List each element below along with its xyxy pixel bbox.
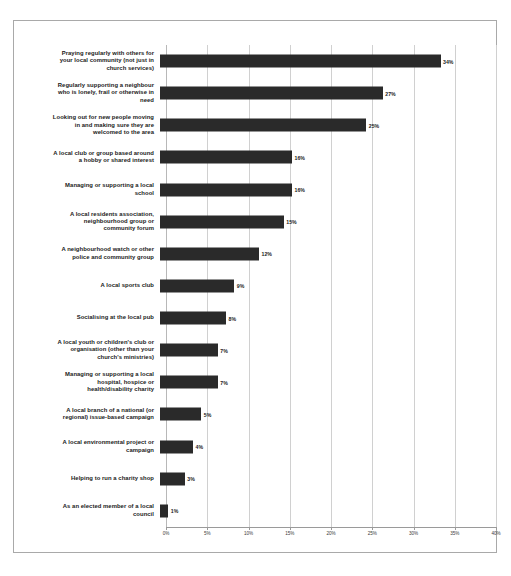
bar-rows: Praying regularly with others for your l… xyxy=(14,45,496,527)
bar-track: 8% xyxy=(160,302,496,334)
x-axis: 0%5%10%15%20%25%30%35%40% xyxy=(166,527,496,549)
x-tick xyxy=(331,527,332,530)
x-tick-label: 5% xyxy=(204,531,211,536)
bar-value-label: 34% xyxy=(443,58,453,64)
bar-track: 15% xyxy=(160,206,496,238)
x-tick xyxy=(166,527,167,530)
bar-row: A local youth or children's club or orga… xyxy=(14,334,496,366)
category-label: A local sports club xyxy=(14,282,160,289)
category-label: A local club or group based around a hob… xyxy=(14,150,160,165)
bar[interactable] xyxy=(160,312,226,325)
bar[interactable] xyxy=(160,408,201,421)
bar-value-label: 25% xyxy=(369,122,379,128)
category-label: A neighbourhood watch or other police an… xyxy=(14,246,160,261)
bar[interactable] xyxy=(160,279,234,292)
bar-track: 12% xyxy=(160,238,496,270)
bar[interactable] xyxy=(160,440,193,453)
bar-value-label: 3% xyxy=(187,476,195,482)
bar[interactable] xyxy=(160,247,259,260)
bar-value-label: 4% xyxy=(196,444,204,450)
x-tick xyxy=(249,527,250,530)
x-tick-label: 35% xyxy=(450,531,459,536)
category-label: A local branch of a national (or regiona… xyxy=(14,407,160,422)
bar-value-label: 1% xyxy=(171,508,179,514)
bar-value-label: 8% xyxy=(229,315,237,321)
x-tick-label: 20% xyxy=(326,531,335,536)
bar-track: 1% xyxy=(160,495,496,527)
x-tick xyxy=(455,527,456,530)
bar-track: 7% xyxy=(160,334,496,366)
bar-value-label: 7% xyxy=(220,379,228,385)
x-tick-label: 40% xyxy=(491,531,500,536)
x-tick xyxy=(372,527,373,530)
bar-track: 16% xyxy=(160,141,496,173)
bar-value-label: 9% xyxy=(237,283,245,289)
bar-row: A local club or group based around a hob… xyxy=(14,141,496,173)
category-label: A local residents association, neighbour… xyxy=(14,211,160,233)
category-label: Managing or supporting a local school xyxy=(14,182,160,197)
gridline-40 xyxy=(496,45,497,527)
bar-row: As an elected member of a local council1… xyxy=(14,495,496,527)
bar-row: Praying regularly with others for your l… xyxy=(14,45,496,77)
bar-track: 27% xyxy=(160,77,496,109)
bar-track: 7% xyxy=(160,366,496,398)
bar[interactable] xyxy=(160,151,292,164)
bar-value-label: 12% xyxy=(262,251,272,257)
bar-track: 4% xyxy=(160,431,496,463)
bar[interactable] xyxy=(160,55,441,68)
category-label: Looking out for new people moving in and… xyxy=(14,114,160,136)
bar-track: 25% xyxy=(160,109,496,141)
bar-row: Regularly supporting a neighbour who is … xyxy=(14,77,496,109)
category-label: Helping to run a charity shop xyxy=(14,475,160,482)
bar-row: A local residents association, neighbour… xyxy=(14,206,496,238)
bar[interactable] xyxy=(160,504,168,517)
bar-track: 5% xyxy=(160,398,496,430)
x-tick-label: 10% xyxy=(244,531,253,536)
category-label: Managing or supporting a local hospital,… xyxy=(14,371,160,393)
bar[interactable] xyxy=(160,344,218,357)
category-label: A local environmental project or campaig… xyxy=(14,439,160,454)
bar-row: Looking out for new people moving in and… xyxy=(14,109,496,141)
bar[interactable] xyxy=(160,87,383,100)
bar-row: Managing or supporting a local school16% xyxy=(14,174,496,206)
bar-row: Helping to run a charity shop3% xyxy=(14,463,496,495)
x-tick-label: 25% xyxy=(368,531,377,536)
bar-value-label: 5% xyxy=(204,411,212,417)
x-tick xyxy=(414,527,415,530)
x-tick xyxy=(207,527,208,530)
bar-value-label: 27% xyxy=(385,90,395,96)
bar-track: 16% xyxy=(160,174,496,206)
bar-value-label: 15% xyxy=(286,219,296,225)
x-tick-label: 30% xyxy=(409,531,418,536)
bar-track: 34% xyxy=(160,45,496,77)
bar-row: A local sports club9% xyxy=(14,270,496,302)
bar-row: Socialising at the local pub8% xyxy=(14,302,496,334)
bar-value-label: 16% xyxy=(295,187,305,193)
x-tick-label: 0% xyxy=(163,531,170,536)
bar-value-label: 16% xyxy=(295,154,305,160)
bar[interactable] xyxy=(160,215,284,228)
bar-value-label: 7% xyxy=(220,347,228,353)
x-tick xyxy=(290,527,291,530)
bar[interactable] xyxy=(160,183,292,196)
category-label: Regularly supporting a neighbour who is … xyxy=(14,82,160,104)
category-label: Socialising at the local pub xyxy=(14,314,160,321)
bar-track: 9% xyxy=(160,270,496,302)
chart-frame: Praying regularly with others for your l… xyxy=(13,20,497,553)
category-label: A local youth or children's club or orga… xyxy=(14,339,160,361)
x-tick xyxy=(496,527,497,530)
category-label: Praying regularly with others for your l… xyxy=(14,50,160,72)
bar-row: A local branch of a national (or regiona… xyxy=(14,398,496,430)
bar-row: A neighbourhood watch or other police an… xyxy=(14,238,496,270)
bar-row: A local environmental project or campaig… xyxy=(14,431,496,463)
bar[interactable] xyxy=(160,376,218,389)
x-tick-label: 15% xyxy=(285,531,294,536)
bar-row: Managing or supporting a local hospital,… xyxy=(14,366,496,398)
bar[interactable] xyxy=(160,119,366,132)
horizontal-bar-chart: Praying regularly with others for your l… xyxy=(14,21,496,552)
bar[interactable] xyxy=(160,472,185,485)
bar-track: 3% xyxy=(160,463,496,495)
category-label: As an elected member of a local council xyxy=(14,503,160,518)
